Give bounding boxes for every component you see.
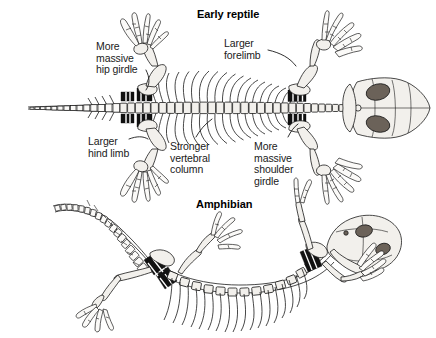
title-amphibian: Amphibian: [196, 198, 252, 210]
leader-larger-forelimb: [268, 50, 296, 66]
leader-stronger-vertebral-column: [196, 119, 212, 137]
amphibian-hind-foot: [76, 304, 113, 332]
amphibian-tail: [53, 200, 158, 273]
annotation-more-massive-hip-girdle: More massive hip girdle: [96, 41, 138, 76]
reptile-forefoot-upper: [322, 11, 362, 57]
reptile-skull: [343, 78, 430, 138]
skeleton-comparison-figure: .ln { stroke:#1a1a1a; fill:none; stroke-…: [0, 0, 436, 338]
annotation-more-massive-shoulder-girdle: More massive shoulder girdle: [254, 141, 293, 187]
reptile-vertebral-column: [120, 102, 357, 114]
reptile-tail: [28, 95, 120, 121]
annotation-stronger-vertebral-column: Stronger vertebral column: [170, 141, 210, 176]
title-early-reptile: Early reptile: [197, 8, 259, 20]
amphibian-forelimb-left: [178, 212, 242, 274]
amphibian-forefoot-left: [211, 212, 242, 249]
annotation-larger-forelimb: Larger forelimb: [224, 38, 261, 61]
amphibian-hind-limb: [76, 267, 152, 332]
skeleton-illustration: .ln { stroke:#1a1a1a; fill:none; stroke-…: [0, 0, 436, 338]
leader-larger-hind-limb: [129, 137, 148, 139]
reptile-forefoot-lower: [322, 158, 362, 204]
amphibian-forefoot-raised: [294, 178, 312, 203]
annotation-larger-hind-limb: Larger hind limb: [88, 136, 129, 159]
amphibian-forelimb-raised: [294, 178, 313, 250]
reptile-forelimb-upper: [297, 11, 362, 88]
